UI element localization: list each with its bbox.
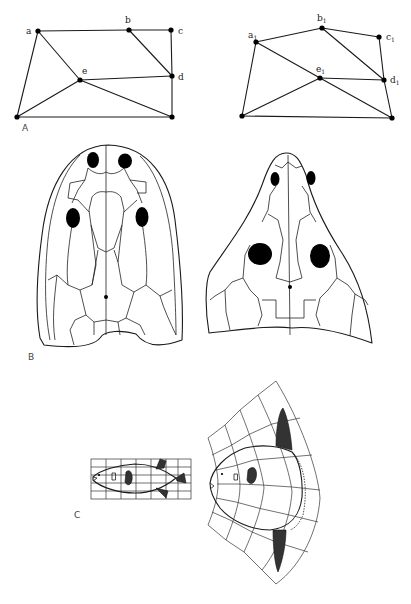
label-b1: b1 [317, 13, 327, 24]
point-bottom-right [169, 114, 174, 119]
point-c [168, 27, 173, 32]
skull-b-right-nostril-left [271, 172, 280, 186]
point-e [77, 77, 82, 82]
skull-b-right-pineal [288, 285, 292, 289]
panel-b-right-skull [206, 153, 372, 343]
point-d1 [381, 77, 386, 82]
skull-b-left-nostril-left [87, 152, 99, 168]
point-bottom-left-1 [239, 113, 244, 118]
skull-b-right-nostril-right [307, 171, 316, 185]
panel-label-a: A [22, 123, 29, 133]
panel-a-right-diagram: a1 b1 c1 d1 e1 [239, 13, 399, 121]
panel-b-left-skull: B [28, 145, 183, 362]
panel-a-left-diagram: a b c d e A [14, 15, 184, 133]
point-bottom-left [14, 114, 19, 119]
label-a1: a1 [248, 30, 257, 41]
skull-b-left-orbit-right [136, 207, 149, 227]
panel-label-b: B [28, 352, 34, 362]
point-bottom-right-1 [389, 115, 394, 120]
panel-label-c: C [74, 510, 80, 520]
label-e: e [82, 66, 87, 76]
panel-c-transformed-fish [208, 381, 320, 584]
label-e1: e1 [316, 64, 325, 75]
point-a [35, 28, 40, 33]
label-d1: d1 [390, 75, 400, 86]
label-a: a [26, 26, 32, 36]
point-e1 [317, 75, 322, 80]
skull-b-left-pineal [104, 295, 108, 299]
point-b [126, 27, 131, 32]
label-b: b [125, 15, 131, 25]
figure: a b c d e A a1 b1 c1 d1 e1 [0, 0, 411, 604]
skull-b-left-orbit-left [66, 208, 80, 228]
point-d [169, 73, 174, 78]
point-c1 [376, 34, 381, 39]
label-c: c [178, 26, 183, 36]
label-c1: c1 [386, 32, 395, 43]
skull-b-right-orbit-left [248, 243, 272, 265]
skull-b-left-nostril-right [118, 154, 132, 169]
panel-c-grid-fish: C [74, 459, 191, 520]
skull-b-right-orbit-right [310, 244, 330, 268]
label-d: d [178, 72, 184, 82]
point-b1 [319, 25, 324, 30]
